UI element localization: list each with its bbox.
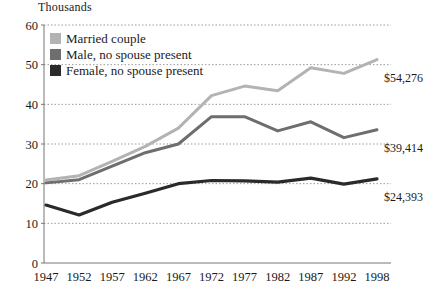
legend-item-married-couple[interactable]: Married couple — [50, 32, 146, 45]
y-axis-tick-label: 60 — [26, 19, 39, 33]
x-axis-tick-label: 1982 — [265, 270, 290, 284]
data-series-line — [46, 178, 377, 215]
x-axis-tick-label: 1992 — [331, 270, 356, 284]
legend-item-male-no-spouse[interactable]: Male, no spouse present — [50, 48, 192, 61]
y-axis-tick-label: 40 — [26, 98, 39, 112]
chart-container: Thousands 0102030405060 1947195219571962… — [0, 0, 439, 299]
legend-swatch-icon — [50, 65, 61, 76]
legend-label: Married couple — [66, 32, 146, 45]
legend-label: Female, no spouse present — [66, 64, 203, 77]
x-axis-tick-label: 1947 — [34, 270, 59, 284]
y-axis-tick-label: 30 — [26, 138, 39, 152]
x-axis-tick-label: 1957 — [100, 270, 125, 284]
x-axis-tick-label: 1972 — [199, 270, 224, 284]
y-axis-tick-label: 50 — [26, 58, 39, 72]
y-axis-tick-label: 10 — [26, 217, 39, 231]
x-axis-tick-label: 1977 — [232, 270, 257, 284]
legend-item-female-no-spouse[interactable]: Female, no spouse present — [50, 64, 203, 77]
x-axis-tick-label: 1998 — [365, 270, 390, 284]
data-series-group — [46, 60, 377, 215]
x-axis-tick-labels: 1947195219571962196719721977198219871992… — [34, 270, 390, 284]
legend-swatch-icon — [50, 49, 61, 60]
x-axis-tick-label: 1962 — [133, 270, 158, 284]
x-axis-tick-label: 1952 — [67, 270, 92, 284]
legend-swatch-icon — [50, 33, 61, 44]
series-end-label: $24,393 — [384, 190, 423, 204]
x-axis-tick-label: 1967 — [166, 270, 191, 284]
legend-label: Male, no spouse present — [66, 48, 192, 61]
y-axis-tick-labels: 0102030405060 — [26, 19, 39, 271]
series-end-labels: $54,276$39,414$24,393 — [384, 71, 423, 204]
x-axis-tick-label: 1987 — [298, 270, 323, 284]
y-axis-tick-label: 0 — [32, 257, 38, 271]
y-axis-tick-label: 20 — [26, 177, 39, 191]
series-end-label: $54,276 — [384, 71, 423, 85]
series-end-label: $39,414 — [384, 141, 423, 155]
data-series-line — [46, 117, 377, 183]
